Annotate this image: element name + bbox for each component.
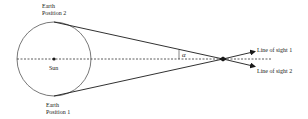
angle-alpha-label: α [182, 51, 186, 59]
earth-position-1-label-line1: Earth [46, 102, 59, 108]
star-marker [219, 57, 227, 62]
earth-position-2-label-line2: Position 2 [42, 10, 66, 16]
line-of-sight-2-arrow [223, 59, 255, 67]
line-of-sight-1-label: Line of sight 1 [257, 47, 292, 53]
parallax-diagram: Earth Position 2 Sun Earth Position 1 α … [0, 0, 308, 119]
line-of-sight-2-label: Line of sight 2 [257, 68, 292, 74]
sun-dot [52, 57, 55, 60]
earth-position-2-label-line1: Earth [42, 3, 55, 9]
sight-line-position-2 [54, 22, 223, 59]
line-of-sight-1-arrow [223, 52, 255, 60]
sun-label: Sun [49, 65, 58, 71]
earth-position-1-label-line2: Position 1 [46, 109, 70, 115]
sight-line-position-1 [54, 59, 223, 96]
